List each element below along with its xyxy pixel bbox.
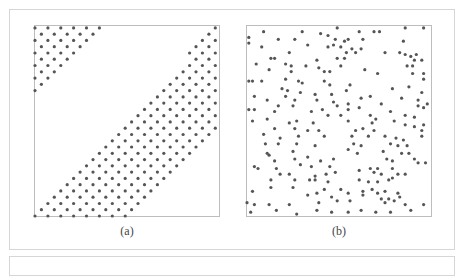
data-point [33, 214, 36, 217]
data-point [59, 64, 62, 67]
data-point [306, 194, 309, 197]
data-point [117, 183, 120, 186]
data-point [169, 120, 172, 123]
data-point [314, 93, 317, 96]
data-point [383, 201, 386, 204]
data-point [339, 114, 342, 117]
data-point [85, 202, 88, 205]
data-point [124, 214, 127, 217]
data-point [182, 70, 185, 73]
data-point [111, 202, 114, 205]
data-point [46, 202, 49, 205]
data-point [182, 120, 185, 123]
data-point [59, 202, 62, 205]
data-point [136, 114, 139, 117]
data-point [336, 57, 339, 60]
data-point [136, 177, 139, 180]
data-point [104, 183, 107, 186]
data-point [46, 214, 49, 217]
data-point [46, 64, 49, 67]
data-point [162, 89, 165, 92]
data-point [98, 26, 101, 29]
data-point [326, 180, 329, 183]
data-point [130, 171, 133, 174]
data-point [367, 135, 370, 138]
data-point [369, 95, 372, 98]
data-point [314, 178, 317, 181]
data-point [194, 70, 197, 73]
data-point [314, 175, 317, 178]
data-point [253, 203, 256, 206]
data-point [53, 208, 56, 211]
data-point [46, 77, 49, 80]
data-point [194, 58, 197, 61]
data-point [182, 145, 185, 148]
data-point [214, 77, 217, 80]
data-point [312, 121, 315, 124]
data-point [156, 108, 159, 111]
data-point [343, 40, 346, 43]
data-point [175, 102, 178, 105]
data-point [299, 91, 302, 94]
data-point [404, 173, 407, 176]
data-point [347, 211, 350, 214]
data-point [175, 139, 178, 142]
data-point [269, 178, 272, 181]
data-point [319, 32, 322, 35]
next-figure-frame [9, 256, 455, 276]
data-point [306, 156, 309, 159]
data-point [162, 164, 165, 167]
data-point [91, 171, 94, 174]
data-point [169, 108, 172, 111]
data-point [130, 145, 133, 148]
data-point [347, 108, 350, 111]
data-point [420, 129, 423, 132]
data-point [426, 102, 429, 105]
data-point [66, 183, 69, 186]
data-point [72, 177, 75, 180]
data-point [308, 178, 311, 181]
data-point [391, 159, 394, 162]
data-point [91, 208, 94, 211]
data-point [85, 39, 88, 42]
data-point [334, 38, 337, 41]
data-point [398, 195, 401, 198]
data-point [328, 70, 331, 73]
data-point [33, 51, 36, 54]
data-point [354, 129, 357, 132]
data-point [40, 208, 43, 211]
data-point [53, 33, 56, 36]
data-point [104, 145, 107, 148]
data-point [188, 102, 191, 105]
data-point [194, 95, 197, 98]
data-point [175, 152, 178, 155]
scatter-plot-b [246, 25, 432, 217]
data-point [247, 42, 250, 45]
data-point [422, 106, 425, 109]
data-point [143, 108, 146, 111]
data-point [299, 163, 302, 166]
data-point [111, 164, 114, 167]
data-point [182, 95, 185, 98]
data-point [360, 47, 363, 50]
data-point [98, 177, 101, 180]
data-point [124, 202, 127, 205]
data-point [156, 133, 159, 136]
data-point [245, 201, 248, 204]
data-point [339, 188, 342, 191]
data-point [376, 192, 379, 195]
data-point [273, 110, 276, 113]
data-point [85, 164, 88, 167]
data-point [360, 209, 363, 212]
data-point [40, 83, 43, 86]
data-point [149, 127, 152, 130]
data-point [33, 89, 36, 92]
data-point [275, 167, 278, 170]
data-point [117, 196, 120, 199]
data-point [306, 43, 309, 46]
data-point [411, 72, 414, 75]
data-point [301, 81, 304, 84]
data-point [317, 66, 320, 69]
data-point [288, 51, 291, 54]
data-point [345, 89, 348, 92]
